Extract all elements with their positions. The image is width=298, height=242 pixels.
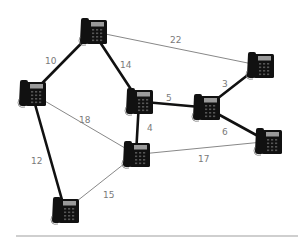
edge-weight-label: 10 (45, 57, 56, 66)
bottom-separator (16, 235, 298, 237)
node-c (124, 87, 154, 116)
node-f (253, 127, 283, 156)
node-h (50, 196, 80, 225)
desk-telephone-icon (191, 93, 221, 122)
edge-weight-label: 22 (170, 36, 181, 45)
edge-weight-label: 14 (120, 61, 131, 70)
node-e (191, 93, 221, 122)
desk-telephone-icon (17, 79, 47, 108)
node-b (17, 79, 47, 108)
edge-weight-label: 4 (147, 124, 153, 133)
desk-telephone-icon (245, 51, 275, 80)
node-a (78, 17, 108, 46)
edge-weight-label: 3 (222, 80, 228, 89)
desk-telephone-icon (253, 127, 283, 156)
desk-telephone-icon (124, 87, 154, 116)
edges-layer (0, 0, 298, 242)
edge-weight-label: 12 (31, 157, 42, 166)
edge-weight-label: 6 (222, 128, 228, 137)
desk-telephone-icon (121, 140, 151, 169)
node-g (121, 140, 151, 169)
desk-telephone-icon (50, 196, 80, 225)
edge-weight-label: 18 (79, 116, 90, 125)
edge-b-h (32, 94, 65, 211)
edge-g-f (136, 142, 268, 155)
node-d (245, 51, 275, 80)
desk-telephone-icon (78, 17, 108, 46)
network-diagram: 101422181254361715 (0, 0, 298, 242)
edge-weight-label: 17 (198, 155, 209, 164)
edge-weight-label: 5 (166, 94, 172, 103)
edge-weight-label: 15 (103, 191, 114, 200)
